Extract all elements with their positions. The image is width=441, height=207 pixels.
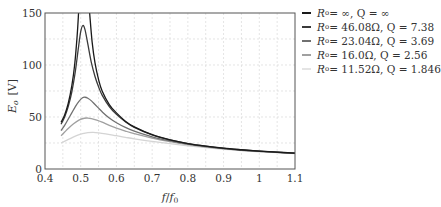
legend-r-symbol: R xyxy=(317,48,325,62)
legend-item: Ro = 11.52Ω, Q = 1.846 xyxy=(302,62,441,76)
x-axis-ticks: 0.40.50.60.70.80.911.1 xyxy=(37,172,304,184)
x-tick-label: 0.5 xyxy=(72,172,89,184)
y-tick-label: 150 xyxy=(22,7,42,19)
legend-item: Ro = 46.08Ω, Q = 7.38 xyxy=(302,20,441,34)
legend-swatch-icon xyxy=(302,26,311,28)
y-axis-label: Eo[V] xyxy=(6,79,20,114)
chart-legend: Ro = ∞, Q = ∞ Ro = 46.08Ω, Q = 7.38 Ro =… xyxy=(302,6,441,76)
legend-text: = 16.0Ω, Q = 2.56 xyxy=(329,48,427,62)
grid-lines xyxy=(45,13,295,169)
legend-text: = ∞, Q = ∞ xyxy=(329,6,389,20)
series-line xyxy=(61,118,295,153)
y-tick-label: 0 xyxy=(35,163,42,175)
y-tick-label: 50 xyxy=(29,111,42,123)
plot-curves xyxy=(61,13,295,154)
x-axis-label: f/f0 xyxy=(161,191,179,205)
legend-text: = 23.04Ω, Q = 3.69 xyxy=(329,34,434,48)
legend-r-symbol: R xyxy=(317,6,325,20)
x-tick-label: 1 xyxy=(256,172,263,184)
legend-swatch-icon xyxy=(302,68,311,70)
x-tick-label: 1.1 xyxy=(287,172,304,184)
legend-swatch-icon xyxy=(302,54,311,56)
legend-r-symbol: R xyxy=(317,62,325,76)
y-axis-ticks: 050100150 xyxy=(22,7,42,175)
legend-r-symbol: R xyxy=(317,34,325,48)
y-tick-label: 100 xyxy=(22,59,42,71)
x-tick-label: 0.7 xyxy=(144,172,161,184)
legend-text: = 11.52Ω, Q = 1.846 xyxy=(329,62,441,76)
legend-item: Ro = ∞, Q = ∞ xyxy=(302,6,441,20)
x-tick-label: 0.6 xyxy=(108,172,125,184)
legend-text: = 46.08Ω, Q = 7.38 xyxy=(329,20,434,34)
series-line xyxy=(61,25,295,153)
legend-item: Ro = 23.04Ω, Q = 3.69 xyxy=(302,34,441,48)
legend-item: Ro = 16.0Ω, Q = 2.56 xyxy=(302,48,441,62)
legend-r-symbol: R xyxy=(317,20,325,34)
x-tick-label: 0.9 xyxy=(215,172,232,184)
x-tick-label: 0.8 xyxy=(180,172,197,184)
legend-swatch-icon xyxy=(302,40,311,42)
legend-swatch-icon xyxy=(302,12,311,14)
series-line xyxy=(90,13,295,153)
